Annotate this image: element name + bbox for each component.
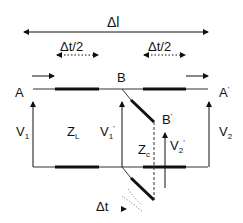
delta-t-half-left-label: Δt/2 xyxy=(60,40,83,53)
v2-prime-label: V2' xyxy=(170,139,185,155)
v2-label: V2 xyxy=(219,125,232,141)
v1-prime-label: V1' xyxy=(100,125,115,141)
node-b-prime-label: B' xyxy=(162,113,172,126)
delta-t-label: Δt xyxy=(96,200,108,213)
v1-label: V1 xyxy=(16,125,29,141)
zc-label: Zc xyxy=(138,143,150,159)
diagram-graphics xyxy=(0,0,243,223)
zl-label: ZL xyxy=(67,125,79,141)
node-b-label: B xyxy=(117,71,126,84)
node-a-prime-label: A' xyxy=(219,86,229,99)
transmission-line-diagram: Δl Δt/2 Δt/2 A A' B B' V1 ZL V1' Zc V2' … xyxy=(0,0,243,223)
delta-l-label: Δl xyxy=(107,15,119,29)
delta-t-half-right-label: Δt/2 xyxy=(148,40,171,53)
node-a-label: A xyxy=(15,86,24,99)
